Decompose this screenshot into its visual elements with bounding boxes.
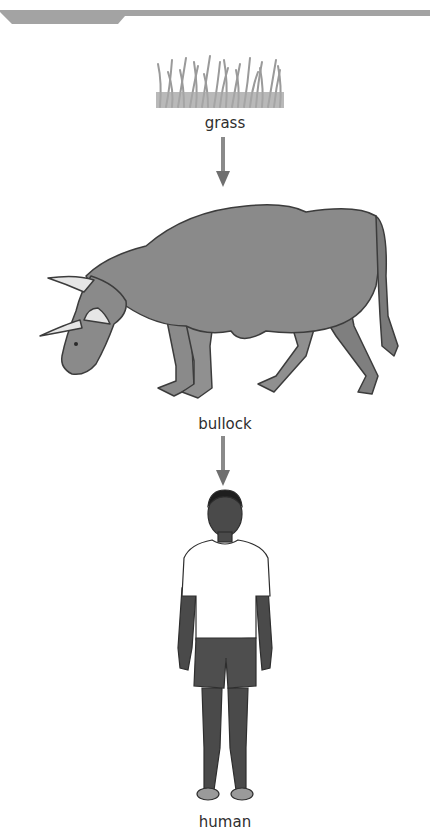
- human-label: human: [165, 813, 285, 831]
- grass-label: grass: [165, 114, 285, 132]
- arrow-bullock-to-human: [215, 436, 231, 488]
- bullock-icon: [36, 196, 408, 408]
- human-icon: [170, 488, 280, 808]
- bullock-label: bullock: [165, 415, 285, 433]
- grass-icon: [150, 52, 290, 112]
- arrow-grass-to-bullock: [215, 137, 231, 189]
- header-bar: [0, 0, 430, 26]
